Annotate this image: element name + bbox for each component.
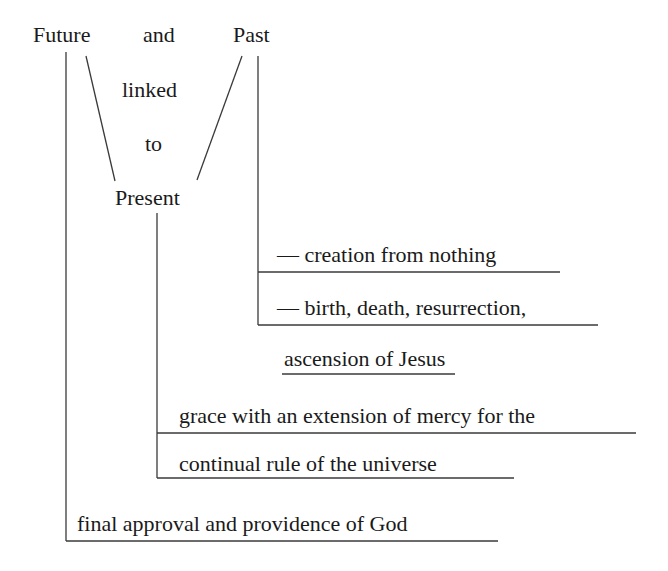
- word-future: Future: [33, 22, 90, 48]
- present-item-grace: grace with an extension of mercy for the: [179, 403, 535, 429]
- future-diagonal-line: [86, 56, 115, 181]
- past-item-ascension: ascension of Jesus: [284, 346, 445, 372]
- word-past: Past: [233, 22, 270, 48]
- word-present: Present: [115, 185, 180, 211]
- present-item-rule: continual rule of the universe: [179, 451, 437, 477]
- diagram-lines: [0, 0, 668, 571]
- past-item-birth: — birth, death, resurrection,: [277, 295, 526, 321]
- past-diagonal-line: [197, 56, 242, 180]
- past-item-creation: — creation from nothing: [277, 242, 496, 268]
- word-and: and: [143, 22, 175, 48]
- word-linked: linked: [122, 77, 177, 103]
- future-item-approval: final approval and providence of God: [77, 511, 408, 537]
- word-to: to: [145, 131, 162, 157]
